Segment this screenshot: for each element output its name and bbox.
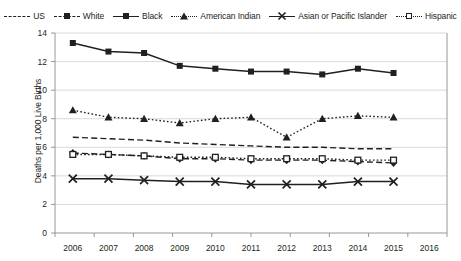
legend-item-american-indian[interactable]: American Indian: [171, 11, 260, 22]
series-black: [70, 40, 397, 77]
data-point-black: [319, 71, 325, 77]
series-line-asian-or-pacific-islander: [73, 179, 394, 185]
data-point-hispanic: [319, 156, 325, 162]
x-axis-ticks: 2006200720082009201020112012201320142015…: [55, 233, 447, 253]
x-tick-label: 2013: [313, 243, 332, 253]
y-tick-label: 2: [42, 199, 47, 209]
legend-item-label: Asian or Pacific Islander: [298, 11, 387, 21]
square-marker-icon: [123, 13, 129, 19]
x-tick-label: 2011: [242, 243, 261, 253]
legend-item-black[interactable]: Black: [113, 11, 162, 22]
legend-swatch-icon: [54, 11, 80, 22]
data-point-black: [355, 66, 361, 72]
data-point-black: [248, 69, 254, 75]
data-point-american-indian: [283, 133, 291, 140]
legend-item-white[interactable]: White: [54, 11, 104, 22]
data-point-hispanic: [70, 152, 76, 158]
data-point-hispanic: [177, 154, 183, 160]
legend-item-label: Hispanic: [425, 11, 457, 21]
data-point-black: [141, 50, 147, 56]
series-asian-or-pacific-islander: [69, 175, 398, 189]
chart-legend: USWhiteBlackAmerican IndianAsian or Paci…: [0, 6, 461, 26]
series-hispanic: [70, 152, 397, 164]
x-tick-label: 2007: [99, 243, 118, 253]
x-tick-label: 2016: [420, 243, 439, 253]
y-tick-label: 0: [42, 228, 47, 238]
chart-root: USWhiteBlackAmerican IndianAsian or Paci…: [0, 0, 461, 261]
legend-swatch-icon: [396, 11, 422, 22]
x-tick-label: 2015: [384, 243, 403, 253]
x-tick-label: 2008: [135, 243, 154, 253]
series-line-american-indian: [73, 110, 394, 137]
x-tick-label: 2006: [63, 243, 82, 253]
triangle-marker-icon: [180, 13, 188, 20]
y-axis-label: Deaths per 1,000 Live Births: [33, 31, 43, 231]
data-point-black: [284, 69, 290, 75]
data-point-hispanic: [248, 156, 254, 162]
legend-item-label: US: [33, 11, 45, 21]
legend-swatch-icon: [269, 11, 295, 22]
data-point-hispanic: [141, 153, 147, 159]
legend-item-label: White: [83, 11, 104, 21]
line-chart-svg: 0246810121420062007200820092010201120122…: [0, 26, 461, 261]
legend-item-label: Black: [142, 11, 162, 21]
y-tick-label: 8: [42, 114, 47, 124]
data-point-american-indian: [211, 115, 219, 122]
x-tick-label: 2014: [348, 243, 367, 253]
data-point-black: [212, 66, 218, 72]
plot-area: Deaths per 1,000 Live Births 02468101214…: [0, 26, 461, 261]
legend-item-label: American Indian: [200, 11, 260, 21]
data-point-black: [177, 63, 183, 69]
legend-swatch-icon: [171, 11, 197, 22]
x-tick-label: 2010: [206, 243, 225, 253]
y-tick-label: 4: [42, 171, 47, 181]
legend-item-us[interactable]: US: [4, 11, 45, 22]
data-point-american-indian: [390, 113, 398, 120]
series-american-indian: [69, 106, 398, 140]
data-point-hispanic: [212, 154, 218, 160]
legend-swatch-icon: [113, 11, 139, 22]
data-point-american-indian: [247, 113, 255, 120]
axes: [55, 33, 447, 233]
opensquare-marker-icon: [406, 13, 412, 19]
data-point-american-indian: [69, 106, 77, 113]
data-point-black: [105, 49, 111, 55]
data-point-hispanic: [355, 157, 361, 163]
legend-swatch-icon: [4, 11, 30, 22]
data-point-hispanic: [391, 157, 397, 163]
y-gridlines: 02468101214: [38, 28, 447, 238]
x-tick-label: 2012: [277, 243, 296, 253]
data-point-black: [391, 70, 397, 76]
data-point-hispanic: [106, 152, 112, 158]
data-point-black: [70, 40, 76, 46]
diamond-marker-icon: [64, 13, 70, 19]
data-point-hispanic: [284, 156, 290, 162]
x-marker-icon: [278, 12, 287, 21]
y-tick-label: 6: [42, 142, 47, 152]
series-line-black: [73, 43, 394, 74]
legend-item-asian-or-pacific-islander[interactable]: Asian or Pacific Islander: [269, 11, 387, 22]
legend-item-hispanic[interactable]: Hispanic: [396, 11, 457, 22]
x-tick-label: 2009: [170, 243, 189, 253]
